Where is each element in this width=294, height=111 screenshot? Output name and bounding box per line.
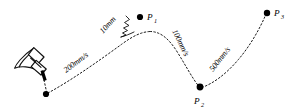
spray-nozzle-icon xyxy=(15,48,47,81)
path-segment-start-to-apex xyxy=(48,32,150,94)
dimension-label-standoff: 10mm xyxy=(98,15,118,36)
point-label-p2-subscript: 2 xyxy=(201,101,204,108)
nozzle-stem xyxy=(42,71,45,81)
point-label-p1-subscript: 1 xyxy=(154,17,157,24)
trajectory-diagram: 200mm/s 10mm 100mm/s 500mm/s P 1 P 2 P 3 xyxy=(0,0,294,111)
point-label-p2: P 2 xyxy=(193,96,204,108)
speed-label-segment-3: 500mm/s xyxy=(207,45,232,73)
path-segment-p2-to-p3 xyxy=(202,17,265,88)
point-label-p2-letter: P xyxy=(193,96,200,106)
label-group: 200mm/s 10mm 100mm/s 500mm/s xyxy=(62,15,232,75)
path-segment-nozzle-to-start xyxy=(44,80,47,92)
squiggle-line xyxy=(121,16,130,37)
point-label-p3-subscript: 3 xyxy=(280,13,284,20)
speed-label-segment-2: 100mm/s xyxy=(170,28,191,58)
standoff-leader-squiggle xyxy=(121,16,134,37)
point-marker-p2[interactable] xyxy=(197,84,204,91)
point-label-p3: P 3 xyxy=(273,8,284,20)
figure-canvas: 200mm/s 10mm 100mm/s 500mm/s P 1 P 2 P 3 xyxy=(0,0,294,111)
point-label-p1-letter: P xyxy=(146,12,153,22)
point-marker-p1[interactable] xyxy=(137,14,143,20)
point-marker-start[interactable] xyxy=(43,91,49,97)
point-label-p1: P 1 xyxy=(146,12,157,24)
point-label-p3-letter: P xyxy=(273,8,280,18)
point-marker-p3[interactable] xyxy=(264,10,270,16)
speed-label-segment-1: 200mm/s xyxy=(62,50,90,74)
